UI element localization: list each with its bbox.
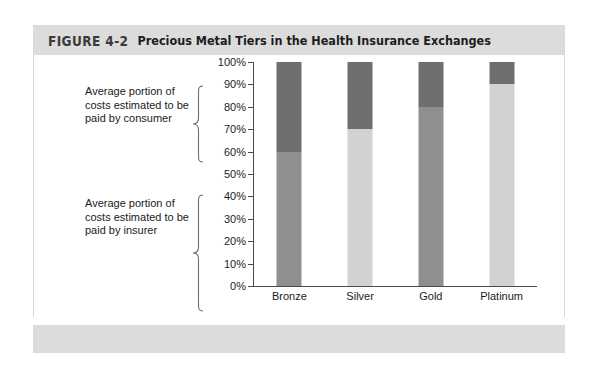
bar-slot <box>396 62 467 286</box>
bar-segment-consumer <box>348 62 373 129</box>
brace-insurer-icon <box>192 194 204 316</box>
stacked-bar-silver[interactable] <box>348 62 373 286</box>
y-tick-label: 100% <box>218 56 246 68</box>
x-axis-line <box>253 286 537 287</box>
x-tick-label-silver: Silver <box>325 290 396 302</box>
y-tick-mark <box>248 241 253 242</box>
x-tick-label-platinum: Platinum <box>466 290 537 302</box>
y-tick-label: 90% <box>224 78 246 90</box>
bar-slot <box>466 62 537 286</box>
stacked-bar-gold[interactable] <box>418 62 443 286</box>
bar-segment-insurer <box>489 84 514 286</box>
bar-slot <box>254 62 325 286</box>
y-tick-mark <box>248 196 253 197</box>
figure-page: FIGURE 4-2 Precious Metal Tiers in the H… <box>0 0 598 366</box>
bar-segment-consumer <box>489 62 514 84</box>
x-tick-label-gold: Gold <box>396 290 467 302</box>
figure-title-label: Precious Metal Tiers in the Health Insur… <box>137 33 490 48</box>
y-tick-label: 60% <box>224 146 246 158</box>
y-tick-label: 10% <box>224 258 246 270</box>
bar-segment-insurer <box>418 107 443 286</box>
y-tick-mark <box>248 152 253 153</box>
bar-segment-consumer <box>277 62 302 152</box>
y-tick-mark <box>248 219 253 220</box>
y-tick-mark <box>248 129 253 130</box>
y-tick-label: 40% <box>224 190 246 202</box>
y-tick-mark <box>248 264 253 265</box>
y-tick-label: 80% <box>224 101 246 113</box>
bar-slot <box>325 62 396 286</box>
stacked-bar-bronze[interactable] <box>277 62 302 286</box>
bar-segment-consumer <box>418 62 443 107</box>
y-axis-labels: 100%90%80%70%60%50%40%30%20%10%0% <box>210 62 246 286</box>
x-axis-labels: BronzeSilverGoldPlatinum <box>254 290 537 310</box>
bar-segment-insurer <box>348 129 373 286</box>
plot-region <box>254 62 537 286</box>
annotation-consumer: Average portion of costs estimated to be… <box>85 85 189 126</box>
bar-segment-insurer <box>277 152 302 286</box>
figure-body: Average portion of costs estimated to be… <box>34 55 564 317</box>
annotation-insurer: Average portion of costs estimated to be… <box>85 197 189 238</box>
y-tick-mark <box>248 286 253 287</box>
y-tick-label: 20% <box>224 235 246 247</box>
y-tick-mark <box>248 84 253 85</box>
y-tick-mark <box>248 174 253 175</box>
stacked-bar-chart: 100%90%80%70%60%50%40%30%20%10%0% Bronze… <box>210 62 550 312</box>
figure-number-label: FIGURE 4-2 <box>48 33 128 49</box>
brace-consumer-icon <box>192 85 204 167</box>
stacked-bar-platinum[interactable] <box>489 62 514 286</box>
y-tick-label: 70% <box>224 123 246 135</box>
y-tick-mark <box>248 107 253 108</box>
figure-card: FIGURE 4-2 Precious Metal Tiers in the H… <box>33 25 565 317</box>
y-tick-label: 30% <box>224 213 246 225</box>
figure-header-band: FIGURE 4-2 Precious Metal Tiers in the H… <box>34 26 564 55</box>
y-tick-mark <box>248 62 253 63</box>
y-tick-label: 50% <box>224 168 246 180</box>
y-tick-label: 0% <box>230 280 246 292</box>
footer-band <box>33 325 565 353</box>
x-tick-label-bronze: Bronze <box>254 290 325 302</box>
